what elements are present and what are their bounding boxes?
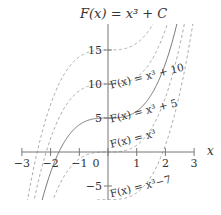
x-tick-label: 1	[133, 157, 140, 170]
x-tick-label: −2	[42, 157, 58, 170]
curve-label: F(x) = x³	[109, 127, 158, 150]
x-axis-label: x	[207, 144, 214, 158]
x-tick-label: 2	[162, 157, 169, 170]
plot-area: −3−2−10123−551015xF(x) = x³ + CF(x) = x³…	[0, 0, 221, 215]
y-tick-label: −5	[86, 180, 102, 193]
x-tick-label: −3	[14, 157, 30, 170]
y-tick-label: 5	[95, 112, 102, 125]
x-tick-label: 0	[93, 157, 100, 170]
y-tick-label: 15	[88, 44, 102, 57]
y-tick-label: 10	[88, 78, 102, 91]
chart: −3−2−10123−551015xF(x) = x³ + CF(x) = x³…	[0, 0, 221, 215]
x-tick-label: 3	[191, 157, 198, 170]
chart-title: F(x) = x³ + C	[79, 6, 167, 21]
curve-label: F(x) = x³ + 10	[109, 61, 185, 91]
curve-label: F(x) = x³ + 5	[109, 96, 179, 124]
x-tick-label: −1	[71, 157, 87, 170]
curve-label: F(x) = x³−7	[109, 173, 173, 200]
